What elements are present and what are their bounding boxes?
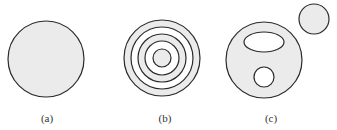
figure-canvas [0, 0, 337, 130]
panel-b-shapes [124, 20, 200, 96]
filled-circle [153, 49, 171, 67]
panel-b-label: (b) [159, 112, 172, 124]
hole-ellipse [244, 32, 284, 52]
hole-circle [254, 67, 274, 87]
filled-circle [299, 4, 329, 34]
panel-c-shapes [226, 4, 329, 98]
panel-a-label: (a) [41, 112, 53, 124]
panel-c-label: (c) [265, 112, 277, 124]
filled-circle [8, 21, 84, 97]
panel-a-shapes [8, 21, 84, 97]
